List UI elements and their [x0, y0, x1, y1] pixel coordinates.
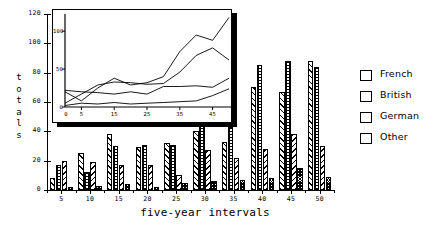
bar-group	[308, 14, 331, 190]
x-group-separator-tick	[76, 190, 77, 193]
bar-french	[308, 61, 313, 190]
x-tick-mark	[205, 190, 206, 194]
inset-line-german	[65, 78, 229, 94]
legend-label: French	[380, 68, 413, 79]
inset-axes	[62, 14, 231, 110]
inset-line-chart: 0501005152535450	[52, 9, 232, 123]
bar-german	[205, 150, 210, 190]
inset-series-lines	[65, 18, 229, 106]
y-tick-label: 20	[16, 157, 41, 164]
x-group-separator-tick	[248, 190, 249, 193]
british-swatch-icon	[360, 91, 372, 102]
inset-line-svg	[53, 10, 233, 124]
inset-line-french	[65, 18, 229, 101]
bar-french	[107, 134, 112, 190]
inset-line-other	[65, 89, 229, 106]
bar-british	[84, 172, 89, 190]
legend-item-other: Other	[360, 131, 438, 152]
inset-x-tick-label: 15	[108, 111, 120, 117]
x-tick-label: 10	[78, 196, 102, 203]
bar-other	[68, 187, 73, 190]
y-axis-title-char: t	[12, 95, 26, 107]
other-swatch-icon	[360, 133, 372, 144]
bar-group	[279, 14, 302, 190]
german-swatch-icon	[360, 112, 372, 123]
bar-french	[164, 143, 169, 190]
inset-x-tick-label: 5	[75, 111, 87, 117]
x-group-separator-tick	[277, 190, 278, 193]
y-axis-title-char: o	[12, 84, 26, 96]
bar-french	[136, 147, 141, 190]
bar-other	[182, 183, 187, 190]
y-axis-title-char: l	[12, 118, 26, 130]
bar-other	[211, 181, 216, 190]
x-tick-label: 30	[193, 196, 217, 203]
x-group-separator-tick	[191, 190, 192, 193]
bar-british	[142, 145, 147, 190]
bar-british	[113, 146, 118, 190]
bar-british	[285, 61, 290, 190]
bar-german	[148, 165, 153, 190]
x-tick-mark	[176, 190, 177, 194]
y-tick-label: 100	[16, 39, 41, 46]
french-swatch-icon	[360, 70, 372, 81]
x-tick-label: 5	[49, 196, 73, 203]
bar-group	[251, 14, 274, 190]
x-tick-mark	[147, 190, 148, 194]
chart-figure: 020406080100120 5101520253035404550 t o …	[0, 0, 438, 234]
x-group-separator-tick	[104, 190, 105, 193]
bar-british	[56, 165, 61, 190]
bar-other	[326, 177, 331, 190]
bar-french	[222, 142, 227, 190]
legend-label: German	[380, 110, 419, 121]
bar-german	[263, 149, 268, 190]
inset-x-tick-label: 35	[174, 111, 186, 117]
legend-item-british: British	[360, 89, 438, 110]
x-group-separator-tick	[133, 190, 134, 193]
legend-item-french: French	[360, 68, 438, 89]
x-tick-label: 15	[107, 196, 131, 203]
bar-other	[269, 178, 274, 190]
bar-french	[279, 92, 284, 190]
x-group-separator-tick	[219, 190, 220, 193]
y-axis-title: t o t a l s	[12, 72, 26, 141]
bar-german	[320, 146, 325, 190]
x-tick-label: 20	[135, 196, 159, 203]
bar-french	[78, 153, 83, 190]
inset-x-tick-label: 25	[141, 111, 153, 117]
bar-german	[62, 161, 67, 190]
inset-x-tick-label: 45	[207, 111, 219, 117]
y-tick-label: 0	[16, 186, 41, 193]
bar-british	[228, 127, 233, 190]
x-tick-mark	[61, 190, 62, 194]
x-tick-label: 50	[308, 196, 332, 203]
bar-other	[297, 168, 302, 190]
bar-british	[257, 65, 262, 190]
bar-german	[90, 162, 95, 190]
bar-other	[125, 184, 130, 190]
bar-french	[251, 87, 256, 190]
x-group-separator-tick	[334, 190, 335, 193]
x-group-separator-tick	[305, 190, 306, 193]
x-axis-title: five-year intervals	[110, 206, 300, 219]
bar-other	[240, 180, 245, 190]
legend-label: Other	[380, 131, 408, 142]
bar-french	[193, 131, 198, 190]
bar-british	[314, 67, 319, 190]
bar-german	[176, 175, 181, 190]
bar-german	[234, 158, 239, 190]
x-tick-mark	[320, 190, 321, 194]
x-group-separator-tick	[162, 190, 163, 193]
bar-german	[119, 165, 124, 190]
x-tick-label: 40	[250, 196, 274, 203]
inset-origin-label: 0	[62, 111, 70, 117]
bar-other	[154, 187, 159, 190]
bar-british	[199, 123, 204, 190]
y-axis-title-char: t	[12, 72, 26, 84]
bar-british	[170, 145, 175, 190]
bar-other	[96, 186, 101, 190]
y-axis-title-char: a	[12, 107, 26, 119]
y-tick-label: 120	[16, 10, 41, 17]
x-tick-mark	[119, 190, 120, 194]
inset-y-tick-label: 50	[53, 66, 63, 72]
